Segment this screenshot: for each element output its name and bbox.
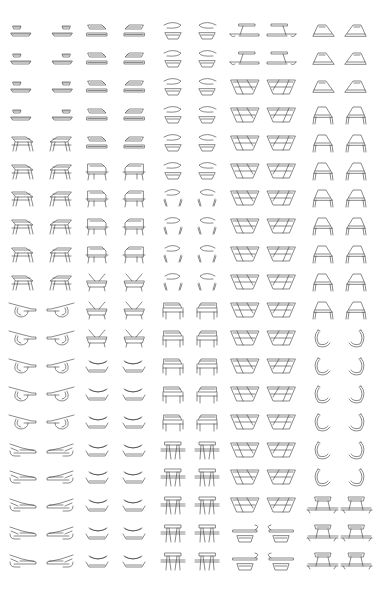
furniture-sketch-icon	[41, 550, 77, 574]
furniture-sketch-icon	[263, 355, 299, 379]
furniture-sketch-icon	[189, 522, 225, 546]
sketch-wedge-legs	[339, 104, 375, 128]
sketch-picnic-table	[189, 439, 225, 463]
sketch-cross-chair	[80, 327, 116, 351]
sketch-boxy-chair	[80, 215, 116, 239]
sketch-hook-bowl	[189, 132, 225, 156]
sketch-hook-legs	[189, 271, 225, 295]
sketch-picnic-bench	[339, 550, 375, 574]
sketch-bowls	[115, 550, 151, 574]
sketch-c-hook	[339, 327, 375, 351]
furniture-sketch-icon	[80, 104, 116, 128]
sketch-flat-trays	[115, 132, 151, 156]
sketch-double-bench	[6, 76, 42, 100]
sketch-trough	[263, 215, 299, 239]
furniture-sketch-icon	[155, 494, 191, 518]
furniture-sketch-icon	[304, 439, 340, 463]
furniture-sketch-icon	[41, 327, 77, 351]
sketch-trough	[227, 494, 263, 518]
sketch-lounger	[41, 550, 77, 574]
furniture-sketch-icon	[339, 327, 375, 351]
sketch-c-hook	[304, 411, 340, 435]
furniture-sketch-icon	[227, 439, 263, 463]
sketch-table-tilted	[6, 243, 42, 267]
sketch-wedge-legs	[339, 132, 375, 156]
furniture-sketch-icon	[339, 550, 375, 574]
furniture-sketch-icon	[155, 104, 191, 128]
furniture-sketch-icon	[6, 215, 42, 239]
sketch-wedge-legs	[304, 215, 340, 239]
sketch-lounger-loop	[6, 411, 42, 435]
furniture-sketch-icon	[41, 299, 77, 323]
sketch-wedge-legs	[304, 299, 340, 323]
furniture-sketch-icon	[115, 550, 151, 574]
furniture-sketch-icon	[6, 20, 42, 44]
sketch-bench-hook	[227, 550, 263, 574]
furniture-sketch-icon	[339, 355, 375, 379]
sketch-cross-chair	[115, 327, 151, 351]
sketch-picnic-bench	[304, 522, 340, 546]
sketch-trough	[227, 243, 263, 267]
sketch-double-bench	[41, 104, 77, 128]
furniture-sketch-icon	[6, 550, 42, 574]
furniture-sketch-icon	[41, 439, 77, 463]
furniture-sketch-icon	[263, 76, 299, 100]
furniture-sketch-icon	[80, 299, 116, 323]
furniture-sketch-icon	[304, 215, 340, 239]
furniture-sketch-icon	[80, 20, 116, 44]
sketch-bowls	[80, 522, 116, 546]
sketch-flat-trays	[115, 104, 151, 128]
sketch-hook-bowl	[155, 20, 191, 44]
furniture-sketch-icon	[80, 411, 116, 435]
furniture-sketch-icon	[339, 522, 375, 546]
sketch-trough	[263, 299, 299, 323]
sketch-wedge-legs	[304, 243, 340, 267]
sketch-trough	[263, 271, 299, 295]
furniture-sketch-icon	[155, 271, 191, 295]
sketch-trough	[227, 299, 263, 323]
furniture-sketch-icon	[189, 439, 225, 463]
furniture-sketch-icon	[6, 104, 42, 128]
sketch-table-tilted	[41, 243, 77, 267]
sketch-bowls	[115, 466, 151, 490]
furniture-sketch-icon	[227, 411, 263, 435]
furniture-sketch-icon	[41, 355, 77, 379]
sketch-bowls	[80, 383, 116, 407]
sketch-lounger	[6, 439, 42, 463]
sketch-table-tilted	[6, 271, 42, 295]
sketch-c-hook	[339, 411, 375, 435]
furniture-sketch-icon	[227, 271, 263, 295]
sketch-cross-chair	[80, 271, 116, 295]
sketch-bench-hook	[227, 522, 263, 546]
furniture-sketch-icon	[304, 494, 340, 518]
furniture-sketch-icon	[189, 271, 225, 295]
sketch-table-tilted	[41, 160, 77, 184]
sketch-bowls	[115, 439, 151, 463]
sketch-wedge-legs	[339, 160, 375, 184]
sketch-table-tilted	[41, 187, 77, 211]
furniture-sketch-icon	[304, 299, 340, 323]
sketch-lounger-loop	[6, 355, 42, 379]
furniture-sketch-icon	[155, 327, 191, 351]
sketch-bowls	[115, 411, 151, 435]
furniture-sketch-icon	[80, 494, 116, 518]
furniture-sketch-icon	[339, 48, 375, 72]
sketch-armchair	[189, 299, 225, 323]
sketch-wedge-legs	[304, 104, 340, 128]
furniture-sketch-icon	[339, 132, 375, 156]
sketch-hook-legs	[155, 271, 191, 295]
furniture-sketch-icon	[304, 271, 340, 295]
furniture-sketch-icon	[263, 187, 299, 211]
sketch-c-hook	[339, 383, 375, 407]
sketch-hook-bowl	[155, 104, 191, 128]
furniture-sketch-icon	[115, 383, 151, 407]
sketch-lounger	[41, 466, 77, 490]
sketch-hook-legs	[189, 187, 225, 211]
furniture-sketch-icon	[263, 243, 299, 267]
furniture-sketch-icon	[155, 299, 191, 323]
sketch-boxy-chair	[115, 243, 151, 267]
furniture-sketch-icon	[227, 383, 263, 407]
furniture-sketch-icon	[155, 383, 191, 407]
furniture-sketch-icon	[155, 132, 191, 156]
furniture-sketch-icon	[263, 132, 299, 156]
